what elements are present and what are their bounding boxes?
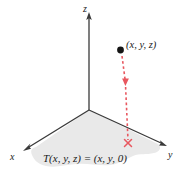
x-axis-arrowhead	[23, 144, 31, 151]
down-arrow-icon	[122, 79, 129, 87]
x-axis-label: x	[10, 152, 14, 162]
z-axis-label: z	[83, 4, 87, 14]
projection-dashed-upper	[122, 56, 125, 79]
point-dot	[117, 47, 124, 54]
point-coordinate-label: (x, y, z)	[126, 39, 156, 50]
diagram-canvas	[0, 0, 184, 176]
y-axis-label: y	[168, 150, 172, 160]
projection-diagram: z x y (x, y, z) T(x, y, z) = (x, y, 0)	[0, 0, 184, 176]
transformation-equation-label: T(x, y, z) = (x, y, 0)	[43, 152, 127, 164]
